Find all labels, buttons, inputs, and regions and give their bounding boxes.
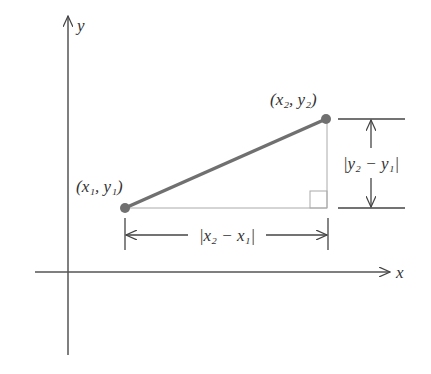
vertical-dimension: |y₂ − y₁|	[338, 119, 405, 208]
distance-segment	[125, 119, 326, 208]
point-2-label: (x₂, y₂)	[270, 90, 317, 109]
distance-diagram: y x (x₁, y₁) (x₂, y₂) |x₂ − x₁| |y₂ − y₁…	[0, 0, 431, 374]
point-1	[120, 203, 130, 213]
x-axis-label: x	[395, 263, 404, 282]
horizontal-dimension: |x₂ − x₁|	[125, 218, 328, 250]
point-1-label: (x₁, y₁)	[76, 177, 123, 196]
x-axis: x	[35, 263, 404, 282]
y-axis-label: y	[75, 16, 85, 35]
point-2	[321, 114, 331, 124]
horizontal-distance-label: |x₂ − x₁|	[199, 226, 255, 245]
right-angle-marker	[310, 191, 327, 208]
vertical-distance-label: |y₂ − y₁|	[343, 154, 399, 173]
